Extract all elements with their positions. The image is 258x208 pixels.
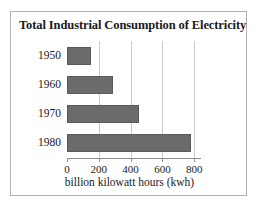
- gridline-800: [194, 41, 195, 158]
- y-category-label-1970: 1970: [13, 107, 61, 119]
- x-tick-mark-800: [194, 158, 195, 162]
- x-tick-label-800: 800: [174, 163, 214, 175]
- x-tick-mark-600: [162, 158, 163, 162]
- bar-1960: [67, 76, 113, 94]
- x-axis-label: billion kilowatt hours (kwh): [11, 176, 248, 188]
- x-tick-mark-400: [131, 158, 132, 162]
- bar-1950: [67, 47, 91, 65]
- bar-1980: [67, 134, 191, 152]
- plot-area: [67, 41, 199, 158]
- y-category-label-1980: 1980: [13, 136, 61, 148]
- bar-1970: [67, 105, 139, 123]
- chart-figure-frame: Total Industrial Consumption of Electric…: [10, 11, 247, 196]
- x-tick-mark-0: [67, 158, 68, 162]
- y-category-label-1950: 1950: [13, 49, 61, 61]
- chart-title: Total Industrial Consumption of Electric…: [19, 18, 243, 33]
- x-axis-line: [67, 158, 201, 159]
- y-category-label-1960: 1960: [13, 78, 61, 90]
- x-tick-mark-200: [99, 158, 100, 162]
